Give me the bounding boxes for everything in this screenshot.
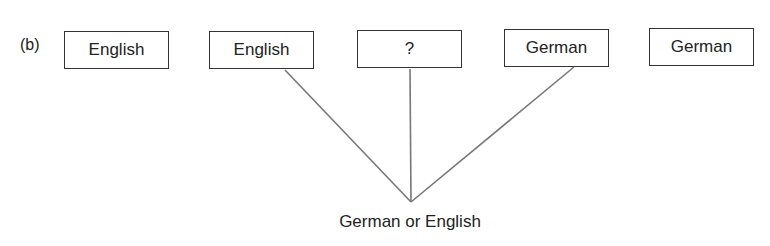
line-german-1 — [411, 67, 574, 202]
line-unknown — [410, 69, 411, 202]
result-label: German or English — [310, 212, 510, 232]
line-english-2 — [285, 70, 411, 202]
connector-lines — [0, 0, 770, 246]
